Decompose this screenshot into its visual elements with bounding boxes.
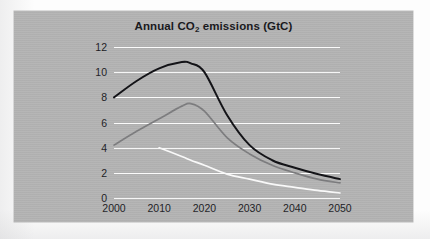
- series-lines-group: [114, 47, 340, 198]
- y-tick-label-2: 2: [101, 167, 107, 179]
- x-tick-label-2010: 2010: [148, 202, 171, 214]
- y-tick-label-10: 10: [95, 66, 107, 78]
- y-tick-label-6: 6: [101, 117, 107, 129]
- y-tick-label-12: 12: [95, 41, 107, 53]
- y-tick-label-8: 8: [101, 91, 107, 103]
- x-tick-label-2050: 2050: [328, 202, 351, 214]
- x-tick-label-2020: 2020: [193, 202, 216, 214]
- plot-area: 024681012 200020102020203020402050: [114, 47, 340, 198]
- chart-title: Annual CO2 emissions (GtC): [14, 20, 413, 32]
- x-tick-label-2000: 2000: [102, 202, 125, 214]
- y-tick-label-4: 4: [101, 142, 107, 154]
- series-line-high-emissions-scenario: [114, 62, 340, 179]
- gridline-y-0: [114, 198, 340, 199]
- x-tick-label-2030: 2030: [238, 202, 261, 214]
- chart-title-rest: emissions (GtC): [199, 20, 292, 32]
- screenshot-root: Annual CO2 emissions (GtC) 024681012 200…: [0, 0, 430, 239]
- x-tick-label-2040: 2040: [283, 202, 306, 214]
- chart-title-main: Annual CO: [135, 20, 195, 32]
- chart-title-subscript: 2: [195, 25, 200, 34]
- chart-figure-panel: Annual CO2 emissions (GtC) 024681012 200…: [14, 11, 413, 222]
